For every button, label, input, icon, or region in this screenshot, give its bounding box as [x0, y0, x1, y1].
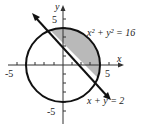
graph: y x 5 -5 -5 5 x² + y² = 16 x + y = 2 [0, 0, 141, 130]
circle-equation-label: x² + y² = 16 [86, 27, 135, 38]
y-tick-label-5: 5 [52, 14, 57, 25]
x-tick-label-neg5: -5 [5, 68, 13, 79]
y-axis-arrow-icon [61, 5, 66, 11]
y-axis-label: y [54, 1, 60, 12]
x-axis-label: x [116, 53, 122, 64]
shaded-region-fill [0, 0, 141, 19]
x-tick-label-5: 5 [105, 68, 110, 79]
y-tick-label-neg5: -5 [47, 106, 55, 117]
line-equation-label: x + y = 2 [86, 95, 124, 106]
